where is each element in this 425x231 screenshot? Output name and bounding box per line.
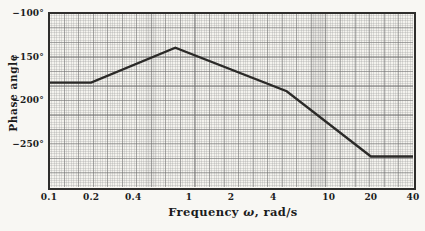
y-tick-label: −100° xyxy=(12,8,44,18)
x-tick-label: 20 xyxy=(364,192,377,202)
x-tick-label: 0.1 xyxy=(41,192,57,202)
y-tick-label: −250° xyxy=(12,138,44,148)
x-axis-title-prefix: Frequency xyxy=(168,205,243,219)
phase-curve-svg xyxy=(49,13,413,187)
x-axis-title-suffix: , rad/s xyxy=(255,205,298,219)
y-axis-title-text: Phase angle xyxy=(7,54,19,132)
phase-curve xyxy=(49,48,413,157)
x-tick-label: 0.2 xyxy=(83,192,99,202)
y-axis-title: Phase angle xyxy=(5,6,20,180)
y-tick-label: −200° xyxy=(12,95,44,105)
x-tick-label: 4 xyxy=(270,192,276,202)
x-tick-label: 40 xyxy=(407,192,420,202)
x-tick-label: 2 xyxy=(228,192,234,202)
x-axis-title: Frequency ω, rad/s xyxy=(49,205,417,219)
omega-symbol: ω xyxy=(243,205,254,219)
bode-phase-plot-figure: Phase angle −100°−150°−200°−250° 0.10.20… xyxy=(0,0,425,231)
y-tick-label: −150° xyxy=(12,51,44,61)
x-tick-label: 0.4 xyxy=(125,192,141,202)
x-tick-label: 1 xyxy=(186,192,192,202)
x-tick-label: 10 xyxy=(322,192,335,202)
plot-area xyxy=(49,13,413,187)
